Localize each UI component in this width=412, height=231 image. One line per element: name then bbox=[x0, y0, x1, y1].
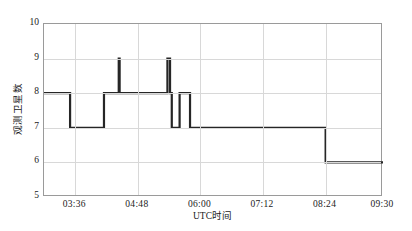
gridline-vertical bbox=[263, 24, 264, 195]
y-tick-label-5: 5 bbox=[5, 191, 39, 201]
gridline-vertical bbox=[75, 24, 76, 195]
x-tick-label-07-12: 07:12 bbox=[232, 200, 292, 210]
x-axis-title: UTC时间 bbox=[43, 211, 382, 221]
x-tick-label-08-24: 08:24 bbox=[295, 200, 355, 210]
gridline-horizontal bbox=[44, 59, 381, 60]
x-tick-label-06-00: 06:00 bbox=[169, 200, 229, 210]
gridline-vertical bbox=[200, 24, 201, 195]
x-tick-label-04-48: 04:48 bbox=[107, 200, 167, 210]
gridline-horizontal bbox=[44, 162, 381, 163]
x-tick-label-03-36: 03:36 bbox=[44, 200, 104, 210]
x-tick-label-09-30: 09:30 bbox=[352, 200, 412, 210]
plot-area bbox=[43, 23, 382, 196]
data-series-layer bbox=[44, 24, 383, 197]
gridline-horizontal bbox=[44, 128, 381, 129]
y-tick-label-9: 9 bbox=[5, 53, 39, 63]
gridline-vertical bbox=[138, 24, 139, 195]
gridline-vertical bbox=[326, 24, 327, 195]
satellite-count-line bbox=[44, 59, 383, 163]
y-tick-label-10: 10 bbox=[5, 18, 39, 28]
y-axis-title: 观测卫星数 bbox=[10, 83, 24, 136]
y-tick-label-6: 6 bbox=[5, 157, 39, 167]
chart-screenshot: 5678910 03:3604:4806:0007:1208:2409:30 U… bbox=[0, 0, 412, 231]
gridline-horizontal bbox=[44, 93, 381, 94]
